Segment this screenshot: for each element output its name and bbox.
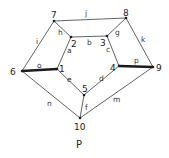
- edge-k: [126, 18, 153, 67]
- vertex-label-5: 5: [82, 84, 88, 94]
- diagram-caption: P: [76, 139, 82, 150]
- vertex-label-4: 4: [110, 63, 116, 73]
- vertex-9: [152, 66, 155, 69]
- edge-p: [119, 66, 153, 67]
- vertex-label-9: 9: [156, 63, 162, 73]
- edge-label-o: o: [37, 61, 42, 70]
- vertex-5: [83, 94, 86, 97]
- vertex-label-1: 1: [59, 64, 65, 74]
- edge-label-c: c: [106, 45, 110, 54]
- edge-m: [80, 67, 153, 118]
- petersen-graph-diagram: 1 2 3 4 5 6 7 8 9 10 a b c d e f g h i j…: [0, 0, 169, 158]
- edge-label-i: i: [36, 37, 38, 46]
- edge-label-j: j: [84, 9, 87, 18]
- vertex-3: [106, 35, 109, 38]
- edge-b: [71, 36, 107, 37]
- edge-label-p: p: [134, 56, 139, 65]
- vertex-label-2: 2: [71, 39, 77, 49]
- vertex-label-7: 7: [51, 10, 57, 20]
- vertex-6: [21, 70, 24, 73]
- edge-label-f: f: [85, 103, 88, 112]
- vertex-label-6: 6: [10, 67, 16, 77]
- vertex-label-8: 8: [123, 8, 129, 18]
- edge-label-h: h: [58, 28, 63, 37]
- vertex-10: [79, 117, 82, 120]
- vertex-7: [53, 20, 56, 23]
- vertex-2: [70, 36, 73, 39]
- edge-f: [80, 95, 84, 118]
- edge-j: [54, 18, 126, 21]
- edge-label-d: d: [99, 74, 104, 83]
- edge-label-b: b: [87, 38, 92, 47]
- edge-label-a: a: [67, 46, 72, 55]
- vertex-label-10: 10: [74, 122, 86, 132]
- vertex-4: [118, 65, 121, 68]
- edge-label-e: e: [67, 75, 72, 84]
- edge-label-m: m: [113, 95, 120, 104]
- vertex-1: [56, 68, 59, 71]
- edge-label-k: k: [141, 35, 146, 44]
- vertex-label-3: 3: [100, 38, 106, 48]
- edge-label-g: g: [115, 28, 120, 37]
- edge-label-n: n: [47, 99, 52, 108]
